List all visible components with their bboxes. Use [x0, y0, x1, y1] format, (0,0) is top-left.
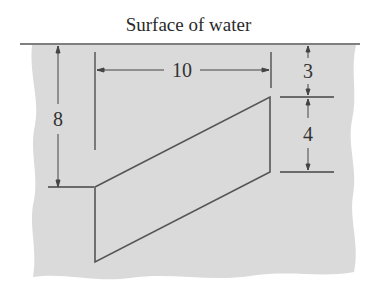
depth-8-label: 8 [53, 108, 63, 130]
width-10-label: 10 [172, 59, 192, 81]
height-4-label: 4 [303, 123, 313, 145]
depth-3-label: 3 [303, 60, 313, 82]
diagram-canvas: 8 10 3 4 [0, 0, 377, 297]
